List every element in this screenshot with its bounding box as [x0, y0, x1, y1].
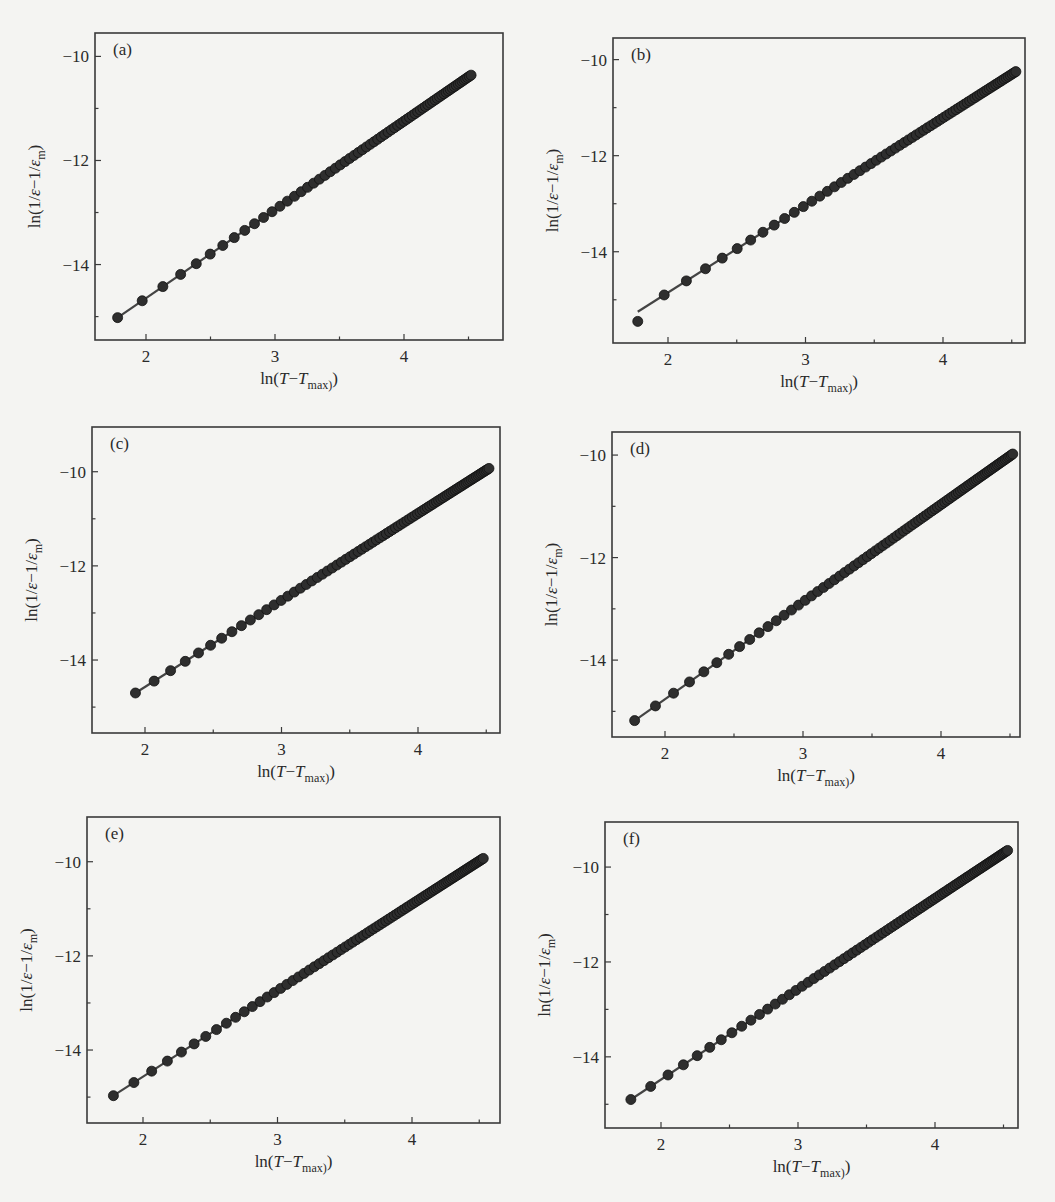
figure-grid: 234−10−12−14ln(T−Tmax))ln(1/ε−1/εm)(a)23… [0, 0, 1055, 1202]
x-axis-label: ln(T−Tmax)) [773, 1157, 851, 1180]
data-point [259, 213, 269, 223]
data-point [108, 1091, 118, 1101]
x-axis: 234 [141, 727, 487, 759]
x-tick-label: 3 [799, 744, 808, 763]
y-tick-label: −12 [59, 557, 86, 576]
x-tick-label: 2 [664, 350, 673, 369]
y-tick-label: −14 [572, 1048, 599, 1067]
y-axis-label: ln(1/ε−1/εm) [543, 149, 566, 232]
data-point [681, 276, 691, 286]
data-point [758, 227, 768, 237]
y-axis-label: ln(1/ε−1/εm) [17, 928, 40, 1011]
data-point [113, 313, 123, 323]
data-point [191, 259, 201, 269]
data-point [147, 1066, 157, 1076]
y-tick-label: −10 [59, 463, 86, 482]
data-point [180, 656, 190, 666]
x-axis-label: ln(T−Tmax)) [260, 369, 338, 392]
chart-panel-f: 234−10−12−14ln(T−Tmax))ln(1/ε−1/εm)(f) [535, 822, 1018, 1180]
x-tick-label: 3 [271, 347, 280, 366]
data-point [663, 1070, 673, 1080]
y-tick-label: −14 [580, 243, 607, 262]
data-point [669, 688, 679, 698]
data-point [201, 1031, 211, 1041]
panel-label: (a) [113, 40, 132, 59]
panel-label: (f) [623, 829, 640, 848]
x-tick-label: 2 [657, 1135, 666, 1154]
chart-panel-c: 234−10−12−14ln(T−Tmax))ln(1/ε−1/εm)(c) [22, 427, 500, 785]
x-tick-label: 4 [931, 1135, 940, 1154]
x-tick-label: 3 [801, 350, 810, 369]
chart-panel-e: 234−10−12−14ln(T−Tmax))ln(1/ε−1/εm)(e) [17, 817, 500, 1175]
y-axis-label: ln(1/ε−1/εm) [542, 543, 565, 626]
data-point [626, 1095, 636, 1105]
x-axis-label: ln(T−Tmax)) [255, 1152, 333, 1175]
x-tick-label: 4 [408, 1130, 417, 1149]
chart-panel-a: 234−10−12−14ln(T−Tmax))ln(1/ε−1/εm)(a) [25, 33, 503, 392]
x-tick-label: 4 [937, 744, 946, 763]
y-axis-label: ln(1/ε−1/εm) [535, 933, 558, 1016]
data-point [484, 463, 494, 473]
chart-panel-b: 234−10−12−14ln(T−Tmax))ln(1/ε−1/εm)(b) [543, 38, 1025, 395]
data-point [735, 642, 745, 652]
data-point [712, 658, 722, 668]
plot-frame [95, 33, 503, 340]
y-tick-label: −10 [62, 47, 89, 66]
data-point [176, 1047, 186, 1057]
data-point [176, 269, 186, 279]
y-tick-label: −12 [580, 147, 607, 166]
x-axis: 234 [657, 1122, 1004, 1154]
data-point [789, 207, 799, 217]
y-tick-label: −14 [579, 651, 606, 670]
y-tick-label: −12 [62, 151, 89, 170]
y-tick-label: −14 [59, 651, 86, 670]
data-point [745, 634, 755, 644]
y-tick-label: −10 [54, 853, 81, 872]
data-point [231, 1012, 241, 1022]
data-point [229, 233, 239, 243]
y-tick-label: −10 [572, 858, 599, 877]
data-point [769, 220, 779, 230]
y-axis-label: ln(1/ε−1/εm) [22, 538, 45, 621]
data-point [189, 1039, 199, 1049]
data-point [780, 214, 790, 224]
x-axis: 234 [661, 731, 1010, 763]
data-point [692, 1051, 702, 1061]
x-tick-label: 2 [661, 744, 670, 763]
data-point [685, 677, 695, 687]
data-point [699, 667, 709, 677]
y-tick-label: −12 [579, 549, 606, 568]
panel-label: (e) [105, 824, 124, 843]
chart-panel-d: 234−10−12−14ln(T−Tmax))ln(1/ε−1/εm)(d) [542, 432, 1020, 789]
data-point [218, 240, 228, 250]
data-point [236, 621, 246, 631]
data-point [746, 1015, 756, 1025]
plot-frame [92, 427, 500, 733]
y-tick-label: −12 [54, 947, 81, 966]
data-point [716, 1035, 726, 1045]
x-tick-label: 4 [400, 347, 409, 366]
x-tick-label: 2 [142, 347, 151, 366]
data-point [630, 716, 640, 726]
y-tick-label: −14 [62, 256, 89, 275]
data-point [705, 1042, 715, 1052]
x-tick-label: 2 [139, 1130, 148, 1149]
data-point [746, 235, 756, 245]
data-point [717, 253, 727, 263]
panel-label: (b) [631, 45, 651, 64]
panel-label: (c) [110, 434, 129, 453]
y-tick-label: −12 [572, 953, 599, 972]
x-axis-label: ln(T−Tmax)) [780, 372, 858, 395]
x-tick-label: 4 [939, 350, 948, 369]
x-tick-label: 3 [277, 740, 286, 759]
x-tick-label: 2 [141, 740, 150, 759]
data-point [130, 688, 140, 698]
data-point [137, 296, 147, 306]
y-tick-label: −10 [579, 446, 606, 465]
data-point [478, 853, 488, 863]
data-point [240, 225, 250, 235]
data-points [633, 67, 1021, 327]
data-point [737, 1021, 747, 1031]
x-axis-label: ln(T−Tmax)) [257, 762, 335, 785]
x-tick-label: 3 [273, 1130, 282, 1149]
